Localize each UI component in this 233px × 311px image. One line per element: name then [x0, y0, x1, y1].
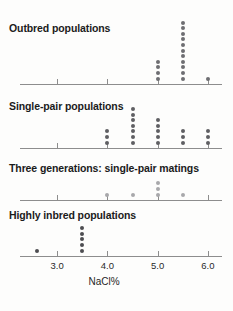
stripchart-figure: Outbred populationsSingle-pair populatio… — [0, 0, 233, 311]
data-point — [181, 37, 185, 41]
x-tick-label-3.0: 3.0 — [42, 260, 72, 271]
axis-tick-3.0 — [57, 251, 58, 256]
data-point — [181, 60, 185, 64]
data-point — [206, 129, 210, 133]
panel-title: Outbred populations — [9, 22, 110, 34]
data-point — [206, 141, 210, 145]
data-point — [80, 249, 84, 253]
data-point — [131, 118, 135, 122]
axis-line — [20, 148, 222, 149]
x-tick-label-4.0: 4.0 — [92, 260, 122, 271]
data-point — [131, 135, 135, 139]
axis-tick-3.0 — [57, 143, 58, 148]
panel-title: Three generations: single-pair matings — [9, 162, 199, 174]
data-point — [156, 129, 160, 133]
panel-title: Highly inbred populations — [9, 209, 136, 221]
panel-title: Single-pair populations — [9, 100, 123, 112]
data-point — [80, 243, 84, 247]
axis-tick-4.0 — [107, 251, 108, 256]
data-point — [181, 26, 185, 30]
axis-tick-6.0 — [208, 251, 209, 256]
data-point — [131, 129, 135, 133]
data-point — [156, 124, 160, 128]
data-point — [105, 129, 109, 133]
data-point — [156, 141, 160, 145]
axis-tick-4.0 — [107, 79, 108, 84]
data-point — [131, 141, 135, 145]
data-point — [206, 135, 210, 139]
data-point — [156, 65, 160, 69]
x-axis-title: NaCl% — [88, 276, 119, 287]
data-point — [105, 135, 109, 139]
data-point — [105, 193, 109, 197]
data-point — [181, 193, 185, 197]
data-point — [181, 77, 185, 81]
data-point — [131, 113, 135, 117]
data-point — [181, 43, 185, 47]
data-point — [156, 60, 160, 64]
data-point — [181, 54, 185, 58]
data-point — [131, 107, 135, 111]
data-point — [181, 49, 185, 53]
data-point — [131, 193, 135, 197]
data-point — [206, 77, 210, 81]
data-point — [156, 77, 160, 81]
data-point — [181, 141, 185, 145]
data-point — [131, 124, 135, 128]
axis-tick-6.0 — [208, 195, 209, 200]
data-point — [156, 71, 160, 75]
axis-line — [20, 200, 222, 201]
axis-line — [20, 84, 222, 85]
data-point — [105, 141, 109, 145]
x-tick-label-5.0: 5.0 — [143, 260, 173, 271]
axis-line — [20, 256, 222, 257]
data-point — [181, 32, 185, 36]
data-point — [80, 237, 84, 241]
data-point — [181, 129, 185, 133]
axis-tick-3.0 — [57, 195, 58, 200]
axis-tick-3.0 — [57, 79, 58, 84]
data-point — [80, 226, 84, 230]
data-point — [181, 21, 185, 25]
data-point — [156, 187, 160, 191]
data-point — [80, 232, 84, 236]
data-point — [181, 135, 185, 139]
data-point — [35, 249, 39, 253]
data-point — [156, 193, 160, 197]
data-point — [156, 135, 160, 139]
data-point — [156, 181, 160, 185]
data-point — [156, 118, 160, 122]
data-point — [181, 65, 185, 69]
x-tick-label-6.0: 6.0 — [193, 260, 223, 271]
axis-tick-5.0 — [158, 251, 159, 256]
data-point — [181, 71, 185, 75]
